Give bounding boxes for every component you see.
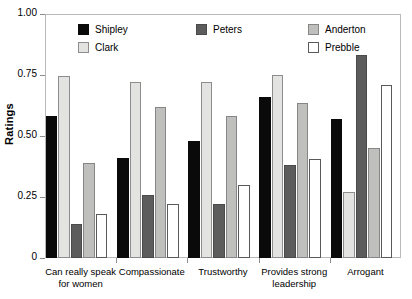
legend-item-prebble[interactable]: Prebble — [308, 42, 359, 53]
x-axis-category-label-line: Arrogant — [322, 266, 409, 278]
y-axis-tick-label: 0.25 — [18, 190, 37, 201]
bar[interactable] — [58, 76, 70, 258]
legend-item-shipley[interactable]: Shipley — [78, 24, 128, 35]
bar[interactable] — [343, 192, 355, 258]
bar[interactable] — [331, 119, 343, 258]
bar[interactable] — [297, 103, 309, 258]
bar[interactable] — [284, 165, 296, 258]
bar[interactable] — [201, 82, 213, 258]
bar-chart: Ratings 00.250.500.751.00 Can really spe… — [0, 0, 412, 299]
x-axis-group-separator — [116, 258, 117, 263]
x-axis-group-separator — [187, 258, 188, 263]
y-axis-tick-label: 1.00 — [18, 7, 37, 18]
bar[interactable] — [71, 224, 83, 258]
legend-item-anderton[interactable]: Anderton — [308, 24, 366, 35]
legend-label-anderton: Anderton — [325, 24, 366, 35]
bar[interactable] — [83, 163, 95, 258]
x-axis-category-label: Arrogant — [322, 266, 409, 278]
legend-item-clark[interactable]: Clark — [78, 42, 118, 53]
legend-swatch-clark — [78, 42, 89, 53]
bar[interactable] — [155, 107, 167, 258]
bar[interactable] — [213, 204, 225, 258]
bar[interactable] — [188, 141, 200, 258]
x-axis-category-label-line: leadership — [251, 278, 338, 290]
bar[interactable] — [142, 195, 154, 258]
bar[interactable] — [96, 214, 108, 258]
bar[interactable] — [272, 75, 284, 258]
bar-group — [116, 14, 187, 258]
bar[interactable] — [46, 116, 58, 258]
bar[interactable] — [226, 116, 238, 258]
legend-label-prebble: Prebble — [325, 42, 359, 53]
legend-swatch-shipley — [78, 24, 89, 35]
legend-swatch-prebble — [308, 42, 319, 53]
y-axis-tick-label: 0 — [31, 251, 37, 262]
bar-group — [187, 14, 258, 258]
y-axis-tick-label: 0.50 — [18, 129, 37, 140]
legend-label-shipley: Shipley — [95, 24, 128, 35]
legend-swatch-anderton — [308, 24, 319, 35]
y-axis-tick-label: 0.75 — [18, 68, 37, 79]
bar[interactable] — [368, 148, 380, 258]
legend-item-peters[interactable]: Peters — [196, 24, 242, 35]
x-axis-group-separator — [330, 258, 331, 263]
legend-swatch-peters — [196, 24, 207, 35]
bar[interactable] — [356, 55, 368, 258]
bar[interactable] — [130, 82, 142, 258]
x-axis-category-label-line: for women — [37, 278, 124, 290]
bar[interactable] — [259, 97, 271, 258]
legend-label-peters: Peters — [213, 24, 242, 35]
legend-label-clark: Clark — [95, 42, 118, 53]
y-axis-tick-mark — [40, 258, 45, 259]
bar[interactable] — [309, 159, 321, 258]
bar[interactable] — [167, 204, 179, 258]
bar[interactable] — [238, 185, 250, 258]
x-axis-group-separator — [259, 258, 260, 263]
bar[interactable] — [381, 85, 393, 258]
y-axis-title: Ratings — [3, 94, 15, 154]
bar[interactable] — [117, 158, 129, 258]
